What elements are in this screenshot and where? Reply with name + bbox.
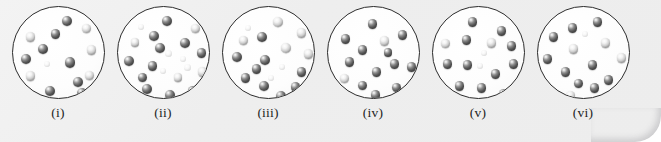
particle-sphere xyxy=(380,36,390,46)
particle-sphere xyxy=(304,49,314,59)
particle-sphere xyxy=(45,86,55,96)
particle-sphere xyxy=(617,53,627,63)
particle-sphere xyxy=(341,34,351,44)
particle-sphere xyxy=(497,26,507,36)
particle-sphere xyxy=(499,89,509,99)
particle-sphere xyxy=(259,81,269,91)
particle-sphere xyxy=(239,36,248,45)
particle-panel-1: (i) xyxy=(6,6,110,134)
panel-label: (v) xyxy=(426,105,530,121)
particle-sphere xyxy=(180,38,190,48)
particle-sphere xyxy=(241,73,251,83)
particle-sphere xyxy=(162,16,172,26)
particle-sphere xyxy=(390,59,400,69)
particle-diagram-figure: (i)(ii)(iii)(iv)(v)(vi) xyxy=(0,0,661,142)
particle-sphere xyxy=(142,84,152,94)
particle-sphere xyxy=(260,55,270,65)
particle-sphere xyxy=(21,54,31,64)
particle-sphere xyxy=(276,91,286,99)
particle-sphere xyxy=(569,44,579,54)
particle-sphere xyxy=(507,41,517,51)
particle-sphere xyxy=(44,61,50,67)
particle-sphere xyxy=(358,81,367,90)
particle-sphere xyxy=(38,44,48,54)
particle-sphere xyxy=(85,71,94,80)
particle-sphere xyxy=(368,19,378,29)
panel-label: (vi) xyxy=(531,105,635,121)
particle-sphere xyxy=(180,56,186,62)
particle-sphere xyxy=(566,91,575,99)
particle-sphere xyxy=(398,30,408,40)
particle-sphere xyxy=(138,73,147,82)
particle-sphere xyxy=(462,35,472,45)
particle-sphere xyxy=(245,25,251,31)
particle-sphere xyxy=(455,81,465,91)
particle-sphere xyxy=(82,24,91,33)
particle-sphere xyxy=(281,43,291,53)
particle-sphere xyxy=(443,59,453,69)
particle-sphere xyxy=(481,50,487,56)
particle-sphere xyxy=(593,17,603,27)
particle-panel-6: (vi) xyxy=(531,6,635,134)
particle-sphere xyxy=(165,90,175,99)
particle-sphere xyxy=(138,24,144,30)
particle-sphere xyxy=(468,17,478,27)
particle-sphere xyxy=(155,43,165,53)
particle-sphere xyxy=(26,32,36,42)
particle-sphere xyxy=(297,67,307,77)
particle-sphere xyxy=(358,45,368,55)
particle-sphere xyxy=(441,39,450,48)
container-circle xyxy=(117,6,210,99)
particle-sphere xyxy=(549,32,559,42)
particle-sphere xyxy=(582,31,588,37)
particle-panel-2: (ii) xyxy=(111,6,215,134)
particle-sphere xyxy=(407,62,417,72)
particle-panel-4: (iv) xyxy=(321,6,425,134)
particle-sphere xyxy=(87,45,97,55)
particle-sphere xyxy=(291,82,301,92)
particle-sphere xyxy=(197,48,207,58)
particle-sphere xyxy=(543,54,553,64)
particle-sphere xyxy=(491,69,501,79)
particle-sphere xyxy=(345,57,355,67)
particle-sphere xyxy=(65,57,76,68)
particle-sphere xyxy=(601,38,611,48)
particle-sphere xyxy=(509,59,519,69)
particle-sphere xyxy=(392,83,401,92)
panel-label: (i) xyxy=(6,105,110,121)
particle-sphere xyxy=(268,75,274,81)
particle-sphere xyxy=(297,28,307,38)
particle-sphere xyxy=(62,16,72,26)
particle-sphere xyxy=(165,50,172,57)
particle-sphere xyxy=(191,24,200,33)
particle-sphere xyxy=(372,67,382,77)
container-circle xyxy=(222,6,315,99)
particle-sphere xyxy=(279,64,285,70)
particle-sphere xyxy=(568,23,578,33)
container-circle xyxy=(327,6,420,99)
particle-sphere xyxy=(273,17,283,27)
particle-sphere xyxy=(574,79,583,88)
container-circle xyxy=(537,6,630,99)
particle-sphere xyxy=(198,67,208,77)
particle-sphere xyxy=(148,61,158,71)
particle-sphere xyxy=(26,71,36,81)
panel-label: (iii) xyxy=(216,105,320,121)
particle-sphere xyxy=(590,83,600,93)
particle-sphere xyxy=(188,86,198,96)
particle-sphere xyxy=(487,38,497,48)
particle-sphere xyxy=(51,29,61,39)
particle-sphere xyxy=(257,32,267,42)
particle-sphere xyxy=(77,88,87,98)
particle-sphere xyxy=(340,74,349,83)
particle-sphere xyxy=(561,67,571,77)
container-circle xyxy=(12,6,105,99)
particle-panel-3: (iii) xyxy=(216,6,320,134)
particle-sphere xyxy=(252,64,262,74)
container-circle xyxy=(432,6,525,99)
particle-sphere xyxy=(73,77,83,87)
particle-sphere xyxy=(463,60,473,70)
particle-sphere xyxy=(124,56,134,66)
particle-sphere xyxy=(149,31,159,41)
particle-sphere xyxy=(477,83,487,93)
